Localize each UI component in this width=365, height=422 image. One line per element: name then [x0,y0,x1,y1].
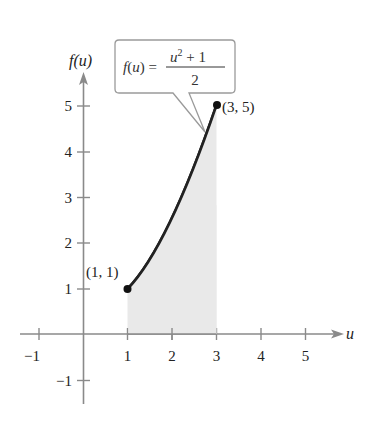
y-tick-label: 5 [65,98,73,114]
point-label-1-1: (1, 1) [86,264,119,281]
callout-lhs: f(u) = [123,59,157,76]
x-tick-label: 1 [124,348,132,364]
function-graph: −1 1 2 3 4 5 5 4 3 2 1 −1 u f(u) (1, 1) … [0,0,365,422]
point-1-1 [124,285,132,293]
y-axis-label: f(u) [69,52,92,70]
x-tick-label: −1 [24,348,40,364]
y-tick-label: 2 [65,235,73,251]
y-tick-label: −1 [56,373,72,389]
x-tick-label: 5 [302,348,310,364]
x-tick-label: 2 [168,348,176,364]
x-tick-label: 4 [257,348,265,364]
y-tick-label: 4 [65,144,73,160]
callout-denominator: 2 [191,72,199,88]
point-3-5 [213,101,221,109]
y-tick-label: 3 [65,190,73,206]
x-axis-label: u [346,325,354,342]
callout-numerator: u2 + 1 [170,47,206,65]
formula-callout: f(u) = u2 + 1 2 [115,40,235,132]
point-label-3-5: (3, 5) [222,99,255,116]
x-tick-label: 3 [213,348,221,364]
y-tick-label: 1 [65,281,73,297]
